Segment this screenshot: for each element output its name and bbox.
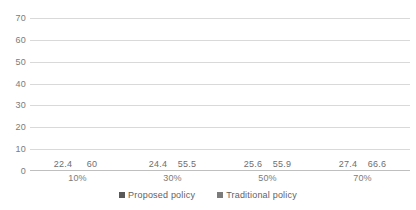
legend-swatch-icon [119, 192, 125, 198]
bar-value-label: 22.4 [54, 159, 72, 169]
bar-value-label: 55.9 [273, 159, 291, 169]
y-axis-tick: 30 [16, 100, 26, 110]
bar-groups: 22.4 60 24.4 55.5 [30, 18, 410, 171]
legend-label: Traditional policy [226, 190, 297, 200]
bar-value-label: 60 [87, 159, 97, 169]
y-axis-tick: 40 [16, 79, 26, 89]
legend-label: Proposed policy [128, 190, 195, 200]
y-axis-tick: 70 [16, 13, 26, 23]
bar-value-label: 66.6 [368, 159, 386, 169]
y-axis-tick: 0 [21, 166, 26, 176]
x-axis-labels: 10% 30% 50% 70% [30, 173, 410, 183]
legend-swatch-icon [217, 192, 223, 198]
legend-item-proposed: Proposed policy [119, 190, 195, 200]
y-axis-tick: 10 [16, 144, 26, 154]
x-axis-tick: 70% [315, 173, 410, 183]
bar-group: 25.6 55.9 [220, 18, 315, 171]
x-axis-tick: 30% [125, 173, 220, 183]
y-axis-tick: 50 [16, 57, 26, 67]
bar-group: 22.4 60 [30, 18, 125, 171]
x-axis-tick: 10% [30, 173, 125, 183]
bar-chart: 70 60 50 40 30 20 10 0 22.4 60 [0, 0, 416, 210]
y-axis-labels: 70 60 50 40 30 20 10 0 [0, 18, 26, 171]
y-axis-tick: 20 [16, 122, 26, 132]
bar-group: 24.4 55.5 [125, 18, 220, 171]
bar-value-label: 24.4 [149, 159, 167, 169]
bar-group: 27.4 66.6 [315, 18, 410, 171]
bar-value-label: 25.6 [244, 159, 262, 169]
legend-item-traditional: Traditional policy [217, 190, 297, 200]
bar-value-label: 55.5 [178, 159, 196, 169]
chart-legend: Proposed policy Traditional policy [0, 190, 416, 200]
x-axis-tick: 50% [220, 173, 315, 183]
y-axis-tick: 60 [16, 35, 26, 45]
bar-value-label: 27.4 [339, 159, 357, 169]
